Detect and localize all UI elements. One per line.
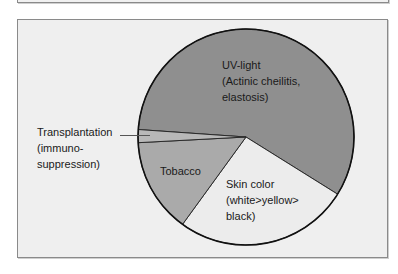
label-transplant-line1: Transplantation [37,124,112,140]
label-tobacco: Tobacco [160,163,201,179]
label-transplantation: Transplantation (immuno- suppression) [37,124,112,172]
label-skin-color: Skin color (white>yellow> black) [226,176,299,224]
label-uv-line3: elastosis) [222,89,300,105]
label-skin-line1: Skin color [226,176,299,192]
label-tobacco-line1: Tobacco [160,163,201,179]
label-skin-line2: (white>yellow> [226,192,299,208]
label-uv-line1: UV-light [222,57,300,73]
label-transplant-line2: (immuno- [37,140,112,156]
label-skin-line3: black) [226,208,299,224]
label-uv-light: UV-light (Actinic cheilitis, elastosis) [222,57,300,105]
label-transplant-line3: suppression) [37,156,112,172]
label-uv-line2: (Actinic cheilitis, [222,73,300,89]
